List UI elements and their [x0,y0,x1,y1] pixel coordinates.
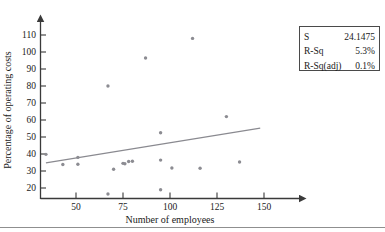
x-tick-label: 150 [257,202,272,212]
statistic-label: R-Sq(adj) [304,61,341,72]
y-tick-label: 60 [27,115,37,125]
data-point [123,162,126,165]
scatter-plot-figure: 2030405060708090100110 Percentage of ope… [0,0,385,232]
x-axis-title: Number of employees [126,214,215,225]
data-point [61,163,64,166]
data-point [76,156,79,159]
data-point [44,153,47,156]
data-point [170,166,173,169]
chart-canvas: 2030405060708090100110 Percentage of ope… [0,0,385,232]
x-tick-label: 50 [71,202,81,212]
statistic-value: 24.1475 [344,32,375,42]
data-point [106,192,109,195]
y-tick-label: 40 [27,149,37,159]
data-point [112,168,115,171]
data-points [44,37,241,196]
x-tick-label: 100 [163,202,178,212]
data-point [144,56,147,59]
data-point [159,131,162,134]
y-tick-label: 90 [27,64,37,74]
y-tick-label: 80 [27,81,37,91]
y-axis-title: Percentage of operating costs [2,51,13,169]
data-point [225,115,228,118]
statistic-value: 5.3% [355,46,375,56]
statistic-label: S [304,32,309,42]
x-tick-label: 125 [210,202,225,212]
data-point [159,158,162,161]
data-point [76,163,79,166]
y-axis: 2030405060708090100110 Percentage of ope… [2,21,46,199]
statistics-box: S24.1475R-Sq5.3%R-Sq(adj)0.1% [300,27,380,72]
y-axis-ticks: 2030405060708090100110 [22,30,46,193]
y-tick-label: 20 [27,183,37,193]
data-point [127,160,130,163]
data-point [198,167,201,170]
y-tick-label: 100 [22,47,37,57]
x-tick-label: 75 [118,202,128,212]
data-point [131,160,134,163]
y-tick-label: 30 [27,166,37,176]
y-tick-label: 50 [27,132,37,142]
statistic-label: R-Sq [304,46,324,56]
x-axis: 5075100125150 Number of employees [41,193,301,226]
y-tick-label: 110 [22,30,36,40]
data-point [191,37,194,40]
data-point [238,160,241,163]
data-point [159,188,162,191]
data-point [106,84,109,87]
y-tick-label: 70 [27,98,37,108]
statistic-value: 0.1% [355,61,375,71]
x-axis-ticks: 5075100125150 [71,193,271,213]
